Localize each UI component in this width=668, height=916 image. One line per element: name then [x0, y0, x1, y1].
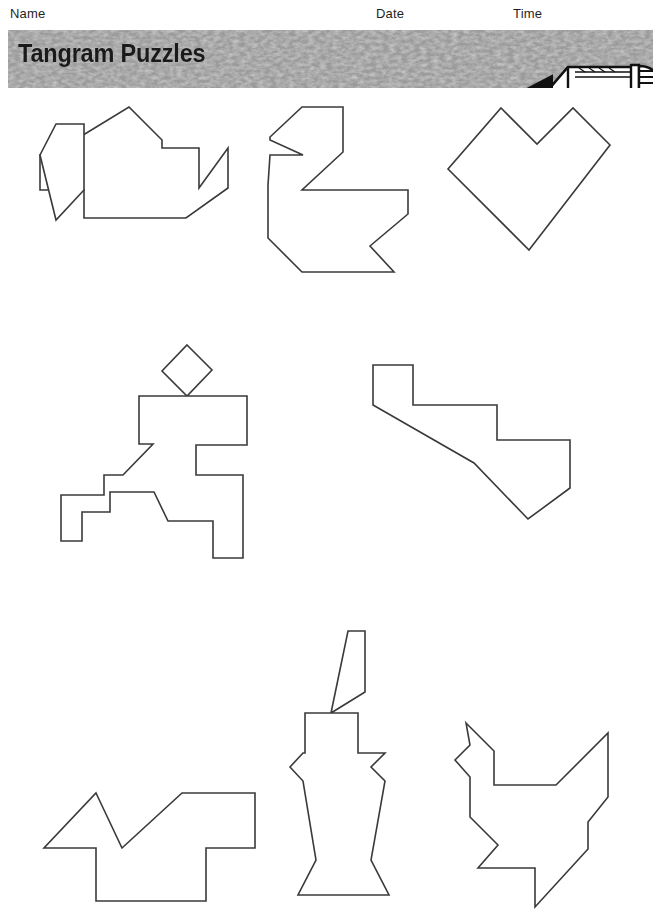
heart-outline: [448, 108, 610, 250]
rooster-outline: [455, 723, 608, 907]
candle-flame: [331, 631, 365, 713]
puzzle-outlines: [0, 0, 668, 916]
candle-body: [290, 713, 389, 895]
worksheet-page: Name Date Time Tangram Puzzles: [0, 0, 668, 916]
puzzle-bird: [44, 793, 255, 901]
puzzle-candle: [290, 631, 389, 895]
puzzle-teapot: [40, 107, 228, 220]
person-body: [61, 396, 247, 558]
puzzle-heart: [448, 108, 610, 250]
puzzle-rooster: [455, 723, 608, 907]
bird-outline: [44, 793, 255, 901]
puzzle-running-person: [61, 345, 247, 558]
person-head: [162, 345, 212, 396]
puzzle-boot: [373, 365, 570, 519]
teapot-body: [75, 107, 228, 218]
swan-outline: [268, 107, 408, 272]
boot-outline: [373, 365, 570, 519]
puzzle-swan: [268, 107, 408, 272]
teapot-spout: [40, 124, 84, 220]
